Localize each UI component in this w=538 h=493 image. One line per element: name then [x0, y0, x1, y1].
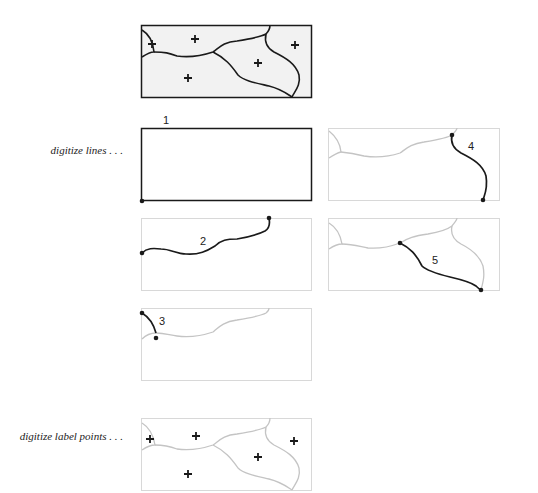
- final-polygon-map: [141, 25, 311, 98]
- step-1-boundary: 1: [141, 128, 311, 201]
- digitize-lines-label: digitize lines . . .: [20, 144, 123, 156]
- step-2-line: 2: [141, 218, 311, 291]
- step-5-number: 5: [432, 254, 438, 266]
- start-node-icon: [140, 199, 145, 204]
- step-5-line: 5: [328, 218, 498, 291]
- step-2-number: 2: [200, 235, 206, 247]
- step-1-number: 1: [163, 114, 169, 126]
- step-3-number: 3: [159, 315, 165, 327]
- label-points-map: [141, 418, 311, 491]
- step-4-number: 4: [468, 140, 474, 152]
- step-4-line: 4: [328, 128, 498, 201]
- digitize-label-points-label: digitize label points . . .: [10, 430, 123, 442]
- step-3-line: 3: [141, 308, 311, 381]
